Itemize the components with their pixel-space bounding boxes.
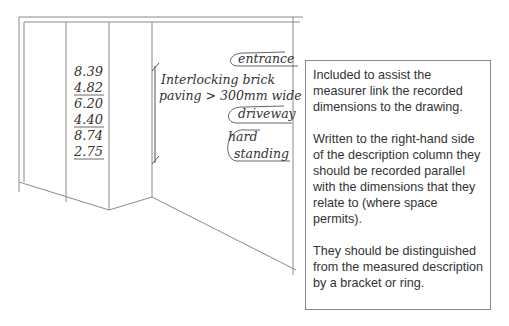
svg-text:entrance: entrance bbox=[238, 51, 294, 66]
svg-text:hard: hard bbox=[228, 129, 257, 144]
note-paragraph: Included to assist the measurer link the… bbox=[313, 67, 484, 115]
dimension-value: 6.20 bbox=[74, 96, 103, 111]
svg-text:driveway: driveway bbox=[238, 106, 297, 121]
note-paragraph: They should be distinguished from the me… bbox=[313, 243, 484, 291]
description-line: Interlocking brick bbox=[160, 72, 275, 87]
dimension-value: 8.39 bbox=[74, 64, 103, 79]
dimension-column: 8.39 4.82 6.20 4.40 8.74 2.75 bbox=[73, 64, 104, 159]
explanation-note-box: Included to assist the measurer link the… bbox=[305, 60, 491, 310]
svg-text:standing: standing bbox=[234, 146, 289, 161]
waste-note-entrance: entrance bbox=[230, 51, 298, 66]
dimension-value: 4.82 bbox=[73, 80, 103, 95]
waste-note-hard-standing: hard standing bbox=[228, 129, 290, 161]
dimension-value: 8.74 bbox=[74, 128, 103, 143]
dimension-value: 4.40 bbox=[73, 112, 103, 127]
note-paragraph: Written to the right-hand side of the de… bbox=[313, 131, 484, 227]
description-bracket bbox=[152, 63, 159, 164]
description-line: paving > 300mm wide bbox=[159, 88, 302, 103]
waste-note-driveway: driveway bbox=[228, 106, 296, 123]
dimension-value: 2.75 bbox=[73, 144, 103, 159]
